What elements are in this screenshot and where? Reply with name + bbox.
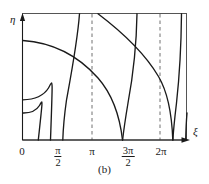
fraction-numerator: 3π <box>122 145 135 157</box>
figure-container: η ξ 0 π 2 π 3π 2 2π (b) <box>0 0 209 184</box>
x-tick-label-0: 0 <box>19 146 25 157</box>
x-axis-label: ξ <box>193 126 198 137</box>
plot-frame <box>23 14 187 141</box>
y-axis-label: η <box>10 14 15 25</box>
figure-caption: (b) <box>0 163 209 175</box>
fraction-numerator: π <box>54 145 61 157</box>
x-tick-label-2pi: 2π <box>155 146 166 157</box>
plot-svg <box>0 0 209 184</box>
x-tick-label-pi: π <box>89 146 95 157</box>
